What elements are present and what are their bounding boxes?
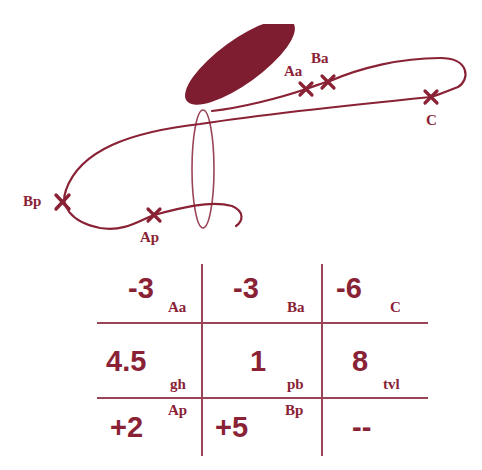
table-cell-label-gh: gh [170, 377, 186, 392]
marker-label-aa: Aa [284, 64, 302, 79]
table-cell-value-gh: 4.5 [106, 347, 146, 376]
table-cell-value-aa: -3 [128, 274, 154, 303]
marker-label-bp: Bp [23, 194, 41, 209]
chromosome-curve [64, 58, 465, 229]
table-cell-label-tvl: tvl [383, 377, 400, 392]
grid-divider-horizontal-2 [97, 397, 428, 399]
table-cell-value-ba: -3 [233, 274, 259, 303]
ring-ellipse [192, 110, 214, 228]
value-table: -3 Aa -3 Ba -6 C 4.5 gh 1 pb 8 tvl +2 Ap… [0, 250, 482, 470]
table-cell-value-pb: 1 [250, 347, 266, 376]
cross-icon-bp [56, 195, 69, 209]
cross-icon-aa [300, 83, 312, 95]
table-cell-label-ap: Ap [168, 403, 187, 418]
grid-divider-vertical-2 [321, 264, 323, 456]
table-cell-label-bp: Bp [285, 403, 303, 418]
table-cell-label-c: C [390, 300, 401, 315]
table-cell-value-tvl: 8 [352, 347, 368, 376]
marker-label-ba: Ba [311, 51, 329, 66]
table-cell-value-empty: -- [352, 413, 371, 442]
table-cell-value-bp: +5 [215, 413, 248, 442]
marker-label-c: C [426, 113, 437, 128]
table-cell-label-ba: Ba [287, 300, 305, 315]
marker-label-ap: Ap [140, 230, 159, 245]
table-cell-value-c: -6 [336, 274, 362, 303]
table-cell-label-pb: pb [287, 377, 304, 392]
diagram-drawing [0, 0, 482, 250]
grid-divider-vertical-1 [201, 264, 203, 456]
grid-divider-horizontal-1 [97, 322, 428, 324]
table-cell-value-ap: +2 [110, 413, 143, 442]
table-cell-label-aa: Aa [168, 300, 186, 315]
chromosome-diagram: Aa Ba C Bp Ap [0, 0, 482, 250]
